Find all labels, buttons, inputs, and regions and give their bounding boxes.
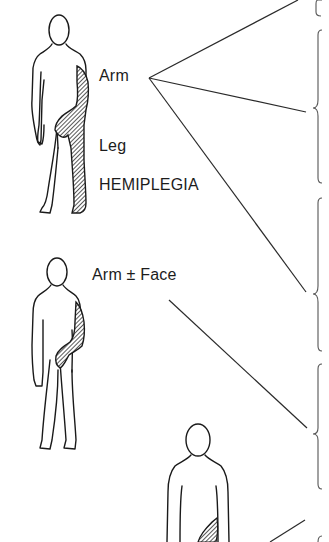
head-outline	[47, 258, 67, 286]
label-arm: Arm	[99, 67, 129, 85]
brace-4	[313, 364, 322, 489]
head-outline	[49, 15, 69, 45]
partial-figure	[167, 424, 229, 542]
brace-1	[316, 0, 322, 16]
partial-affected-region	[198, 518, 218, 542]
label-leg: Leg	[99, 137, 126, 155]
label-hemiplegia: HEMIPLEGIA	[99, 176, 199, 194]
head-outline	[186, 424, 210, 456]
connector-arm-2	[149, 78, 306, 112]
brace-3	[313, 198, 322, 351]
hemiplegia-affected-region	[55, 66, 88, 213]
arm-face-affected-region	[56, 302, 85, 368]
braces	[313, 0, 322, 542]
brace-5	[318, 536, 322, 542]
connector-arm-face	[169, 300, 307, 428]
connector-partial	[270, 520, 305, 542]
label-arm-face: Arm ± Face	[92, 266, 177, 284]
connector-arm-1	[149, 0, 298, 78]
body-outline	[167, 455, 229, 542]
brace-2	[313, 30, 322, 183]
